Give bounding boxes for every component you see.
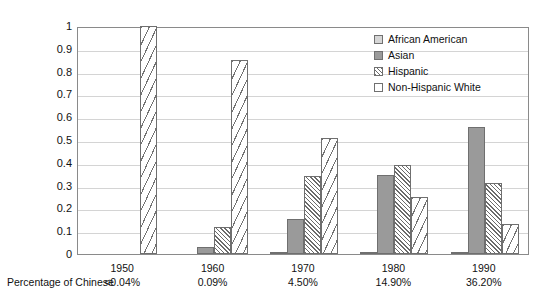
bar: [140, 26, 157, 254]
legend-item-label: African American: [388, 32, 467, 47]
x-axis-group-label: 1950<0.04%: [77, 261, 167, 289]
x-axis-percentage: 4.50%: [258, 275, 348, 289]
bar: [304, 176, 321, 254]
bar: [485, 183, 502, 254]
legend-item[interactable]: Non-Hispanic White: [374, 79, 481, 95]
x-axis-year: 1950: [77, 261, 167, 275]
x-axis-percentage: 14.90%: [348, 275, 438, 289]
legend-swatch-icon: [374, 51, 383, 60]
x-axis-percentage: 0.09%: [167, 275, 257, 289]
x-axis-group-label: 19600.09%: [167, 261, 257, 289]
x-axis-group-label: 199036.20%: [439, 261, 529, 289]
legend-item-label: Hispanic: [388, 64, 428, 79]
x-axis-year: 1990: [439, 261, 529, 275]
y-axis-tick-label: 0.2: [57, 203, 72, 214]
bar: [394, 165, 411, 254]
y-axis-tick-label: 1: [66, 21, 72, 32]
x-axis-percentage: <0.04%: [77, 275, 167, 289]
x-axis-year: 1970: [258, 261, 348, 275]
y-axis-tick-label: 0.5: [57, 135, 72, 146]
x-axis-year: 1980: [348, 261, 438, 275]
bar: [197, 247, 214, 254]
x-axis-percentage: 36.20%: [439, 275, 529, 289]
y-axis-tick-label: 0.6: [57, 112, 72, 123]
bar-group: [259, 28, 349, 254]
chart-legend: African AmericanAsianHispanicNon-Hispani…: [368, 27, 487, 100]
legend-item-label: Non-Hispanic White: [388, 80, 481, 95]
y-axis-tick-label: 0.9: [57, 44, 72, 55]
x-axis-year: 1960: [167, 261, 257, 275]
x-axis-group-label: 198014.90%: [348, 261, 438, 289]
bar: [360, 252, 377, 254]
bar: [377, 175, 394, 254]
x-axis: Percentage of Chinese 1950<0.04%19600.09…: [0, 257, 554, 304]
y-axis-tick-label: 0.1: [57, 226, 72, 237]
bar: [321, 138, 338, 254]
bar-chart: 10.90.80.70.60.50.40.30.20.10 African Am…: [0, 0, 554, 304]
bar: [502, 224, 519, 254]
y-axis-tick-label: 0.4: [57, 158, 72, 169]
bar: [231, 60, 248, 254]
bar: [411, 197, 428, 254]
legend-item[interactable]: Hispanic: [374, 63, 481, 79]
legend-item[interactable]: African American: [374, 31, 481, 47]
legend-swatch-icon: [374, 35, 383, 44]
legend-item[interactable]: Asian: [374, 47, 481, 63]
legend-swatch-icon: [374, 67, 383, 76]
bar-group: [168, 28, 258, 254]
x-axis-group-label: 19704.50%: [258, 261, 348, 289]
y-axis-tick-label: 0.7: [57, 89, 72, 100]
legend-swatch-icon: [374, 83, 383, 92]
bar: [287, 219, 304, 254]
y-axis-tick-label: 0.8: [57, 67, 72, 78]
bar: [270, 252, 287, 254]
bar: [451, 252, 468, 254]
legend-item-label: Asian: [388, 48, 414, 63]
bar: [468, 127, 485, 254]
bar: [214, 227, 231, 254]
bar-group: [78, 28, 168, 254]
y-axis-tick-label: 0.3: [57, 181, 72, 192]
